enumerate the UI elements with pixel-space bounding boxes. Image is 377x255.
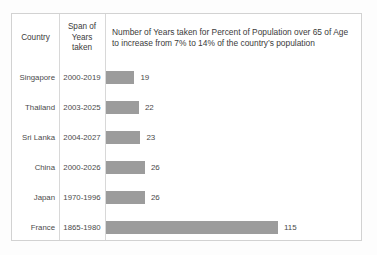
- bar-value-label: 22: [145, 103, 154, 112]
- bar-value-label: 26: [151, 163, 160, 172]
- cell-country: Singapore: [12, 62, 59, 92]
- cell-country: China: [12, 152, 59, 182]
- column-header-span-line-2: Years: [68, 33, 96, 44]
- cell-country: Thailand: [12, 92, 59, 122]
- table-row: China2000-202626: [12, 152, 361, 182]
- column-header-span-line-1: Span of: [68, 22, 96, 33]
- column-header-span-line-3: taken: [68, 43, 96, 54]
- table-header-row: Country Span of Years taken Number of Ye…: [12, 14, 361, 62]
- bar: [106, 191, 145, 204]
- column-header-span-text: Span of Years taken: [68, 22, 96, 54]
- cell-bar-chart: 26: [106, 152, 361, 182]
- cell-bar-chart: 115: [106, 212, 361, 242]
- cell-span-of-years: 2004-2027: [59, 122, 105, 152]
- bar-value-label: 23: [146, 133, 155, 142]
- column-header-country: Country: [12, 14, 59, 62]
- bar-value-label: 115: [284, 223, 297, 232]
- cell-span-of-years: 1970-1996: [59, 182, 105, 212]
- cell-span-of-years: 2000-2019: [59, 62, 105, 92]
- table-row: France1865-1980115: [12, 212, 361, 242]
- cell-bar-chart: 26: [106, 182, 361, 212]
- table-row: Sri Lanka2004-202723: [12, 122, 361, 152]
- cell-country: France: [12, 212, 59, 242]
- table-row: Singapore2000-201919: [12, 62, 361, 92]
- column-header-metric-label: Number of Years taken for Percent of Pop…: [112, 27, 357, 50]
- cell-span-of-years: 2000-2026: [59, 152, 105, 182]
- cell-bar-chart: 23: [106, 122, 361, 152]
- cell-span-of-years: 2003-2025: [59, 92, 105, 122]
- bar: [106, 71, 134, 84]
- cell-bar-chart: 22: [106, 92, 361, 122]
- cell-country: Japan: [12, 182, 59, 212]
- table-body: Singapore2000-201919Thailand2003-202522S…: [12, 62, 361, 242]
- data-table: Country Span of Years taken Number of Ye…: [11, 13, 362, 241]
- document-page: Country Span of Years taken Number of Ye…: [0, 0, 377, 255]
- bar: [106, 221, 278, 234]
- cell-bar-chart: 19: [106, 62, 361, 92]
- bar-value-label: 19: [140, 73, 149, 82]
- table-row: Japan1970-199626: [12, 182, 361, 212]
- bar: [106, 131, 140, 144]
- bar-value-label: 26: [151, 193, 160, 202]
- table-row: Thailand2003-202522: [12, 92, 361, 122]
- cell-span-of-years: 1865-1980: [59, 212, 105, 242]
- bar: [106, 161, 145, 174]
- cell-country: Sri Lanka: [12, 122, 59, 152]
- column-header-metric: Number of Years taken for Percent of Pop…: [106, 14, 359, 62]
- column-header-country-label: Country: [21, 33, 50, 44]
- bar: [106, 101, 139, 114]
- column-header-span-of-years: Span of Years taken: [59, 14, 105, 62]
